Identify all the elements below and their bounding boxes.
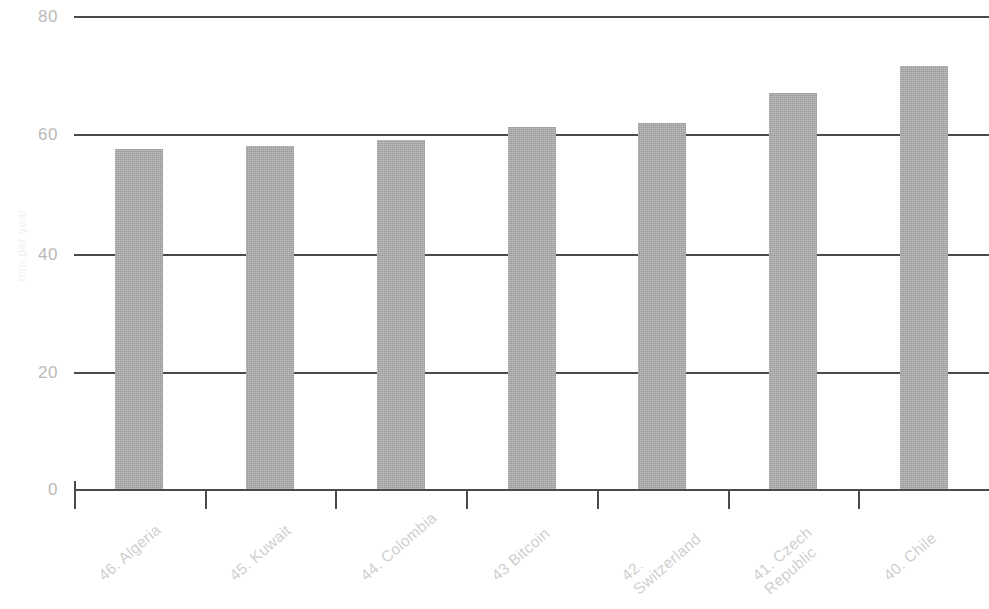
x-axis-tick [205, 489, 207, 509]
x-axis-category-label: 42. Switzerland [618, 516, 705, 598]
ytick-label-0: 0 [12, 481, 58, 498]
x-axis-category-label: 44. Colombia [357, 509, 441, 585]
x-axis-tick [597, 489, 599, 509]
x-axis-tick [466, 489, 468, 509]
x-axis-category-label: 40. Chile [880, 529, 940, 585]
bar [508, 127, 556, 489]
ytick-label-80: 80 [12, 8, 58, 25]
x-axis-category-label: 46. Algeria [95, 521, 165, 585]
x-axis-category-label: 45. Kuwait [226, 522, 295, 585]
ytick-80: 80 [0, 8, 58, 26]
bar [246, 146, 294, 489]
ytick-0: 0 [0, 481, 58, 499]
y-axis-title: mm per year [15, 185, 29, 305]
ytick-60: 60 [0, 126, 58, 144]
bar [900, 66, 948, 489]
x-axis-category-label: 41. Czech Republic [749, 523, 828, 598]
plot-area: 80 60 40 20 0 mm per year 46. Algeria45.… [0, 0, 989, 609]
bar [769, 93, 817, 489]
ytick-40: 40 [0, 246, 58, 264]
ytick-label-20: 20 [12, 364, 58, 381]
y-axis-stub [74, 481, 76, 509]
bar [638, 123, 686, 489]
bar [115, 149, 163, 489]
bar [377, 140, 425, 489]
bar-chart: 80 60 40 20 0 mm per year 46. Algeria45.… [0, 0, 989, 609]
ytick-label-60: 60 [12, 126, 58, 143]
x-axis-tick [335, 489, 337, 509]
x-axis-tick [858, 489, 860, 509]
x-axis-tick [728, 489, 730, 509]
x-axis-line [74, 489, 989, 491]
gridline-80 [74, 16, 989, 18]
ytick-20: 20 [0, 364, 58, 382]
x-axis-category-label: 43 Bitcoin [488, 524, 554, 584]
